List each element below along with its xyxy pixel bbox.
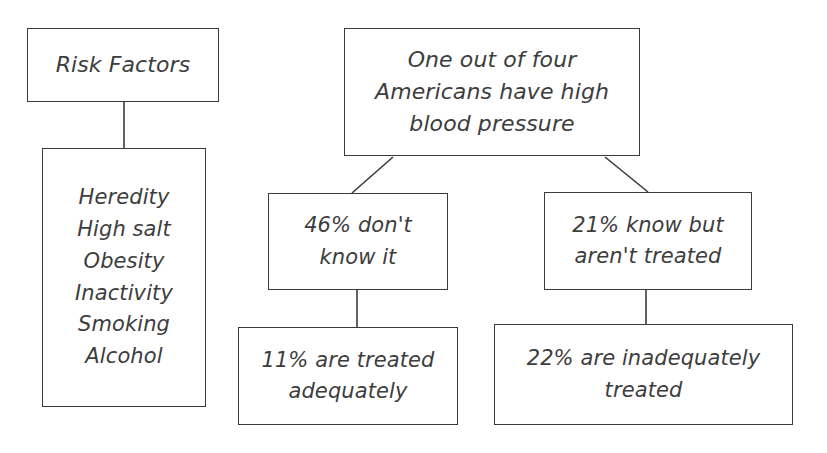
node-risk-factors-list: Heredity High salt Obesity Inactivity Sm… bbox=[42, 148, 206, 407]
risk-factor-item: Smoking bbox=[78, 309, 170, 341]
headline-line-1: One out of four bbox=[408, 44, 577, 76]
dont-know-line-2: know it bbox=[320, 242, 397, 274]
risk-factor-item: Obesity bbox=[84, 246, 165, 278]
blood-pressure-flowchart: Risk Factors Heredity High salt Obesity … bbox=[0, 0, 827, 453]
node-headline-statement: One out of four Americans have high bloo… bbox=[344, 28, 640, 156]
risk-factor-item: Heredity bbox=[79, 182, 170, 214]
know-untreated-line-2: aren't treated bbox=[575, 241, 722, 273]
dont-know-line-1: 46% don't bbox=[304, 210, 412, 242]
know-untreated-line-1: 21% know but bbox=[572, 210, 724, 242]
connector-headline-to-know-untreated bbox=[605, 157, 648, 192]
inadequately-treated-line-2: treated bbox=[605, 375, 683, 407]
headline-line-3: blood pressure bbox=[409, 108, 574, 140]
node-dont-know-it: 46% don't know it bbox=[268, 193, 448, 290]
risk-factors-header-line-1: Risk Factors bbox=[56, 51, 191, 79]
node-know-but-untreated: 21% know but aren't treated bbox=[544, 192, 752, 290]
treated-adequately-line-1: 11% are treated bbox=[261, 345, 434, 377]
node-inadequately-treated: 22% are inadequately treated bbox=[494, 324, 793, 425]
treated-adequately-line-2: adequately bbox=[288, 376, 407, 408]
risk-factor-item: High salt bbox=[77, 214, 171, 246]
risk-factor-item: Inactivity bbox=[75, 278, 173, 310]
inadequately-treated-line-1: 22% are inadequately bbox=[527, 343, 761, 375]
connector-headline-to-dont-know bbox=[352, 157, 393, 193]
headline-line-2: Americans have high bbox=[375, 76, 609, 108]
risk-factor-item: Alcohol bbox=[85, 341, 162, 373]
node-risk-factors-header: Risk Factors bbox=[27, 28, 219, 102]
node-treated-adequately: 11% are treated adequately bbox=[238, 327, 458, 425]
